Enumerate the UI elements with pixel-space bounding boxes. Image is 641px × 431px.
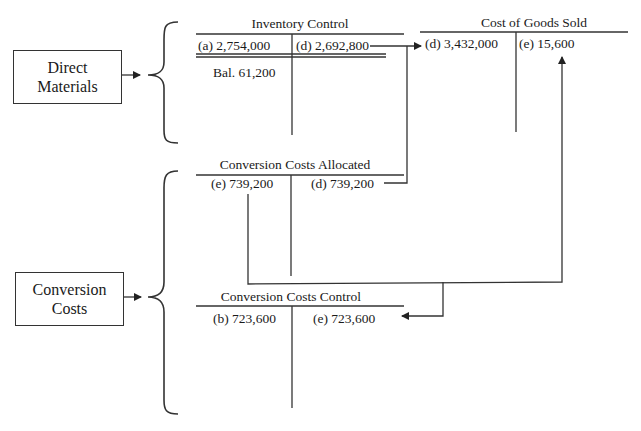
direct-materials-box: Direct Materials	[13, 50, 122, 104]
cca-credit: (d) 739,200	[311, 176, 374, 192]
cogs-credit: (e) 15,600	[519, 36, 574, 52]
cca-debit: (e) 739,200	[211, 176, 273, 192]
dm-brace	[148, 22, 178, 143]
ccc-title: Conversion Costs Control	[196, 289, 386, 305]
conversion-costs-line2: Costs	[52, 299, 88, 318]
inventory-control-balance: Bal. 61,200	[213, 65, 276, 81]
cca-title: Conversion Costs Allocated	[196, 157, 394, 173]
conversion-costs-box: Conversion Costs	[15, 272, 124, 326]
inventory-control-title: Inventory Control	[196, 16, 404, 32]
ccc-credit: (e) 723,600	[313, 311, 375, 327]
direct-materials-line2: Materials	[37, 77, 97, 96]
direct-materials-line1: Direct	[48, 58, 88, 77]
conversion-costs-line1: Conversion	[33, 280, 107, 299]
ccc-debit: (b) 723,600	[213, 311, 276, 327]
inventory-control-credit: (d) 2,692,800	[296, 38, 369, 54]
inventory-control-debit: (a) 2,754,000	[198, 38, 270, 54]
cc-brace	[148, 171, 178, 414]
cogs-title: Cost of Goods Sold	[430, 15, 638, 31]
cogs-debit: (d) 3,432,000	[425, 36, 498, 52]
